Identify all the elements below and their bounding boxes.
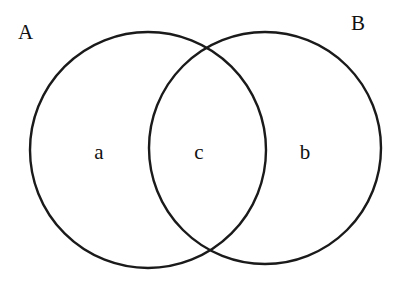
- region-a-label: a: [94, 140, 104, 164]
- region-b-label: b: [300, 140, 311, 164]
- set-a-label: A: [18, 20, 34, 44]
- venn-diagram: A B a c b: [0, 0, 401, 283]
- region-c-label: c: [194, 140, 203, 164]
- set-b-label: B: [351, 11, 365, 35]
